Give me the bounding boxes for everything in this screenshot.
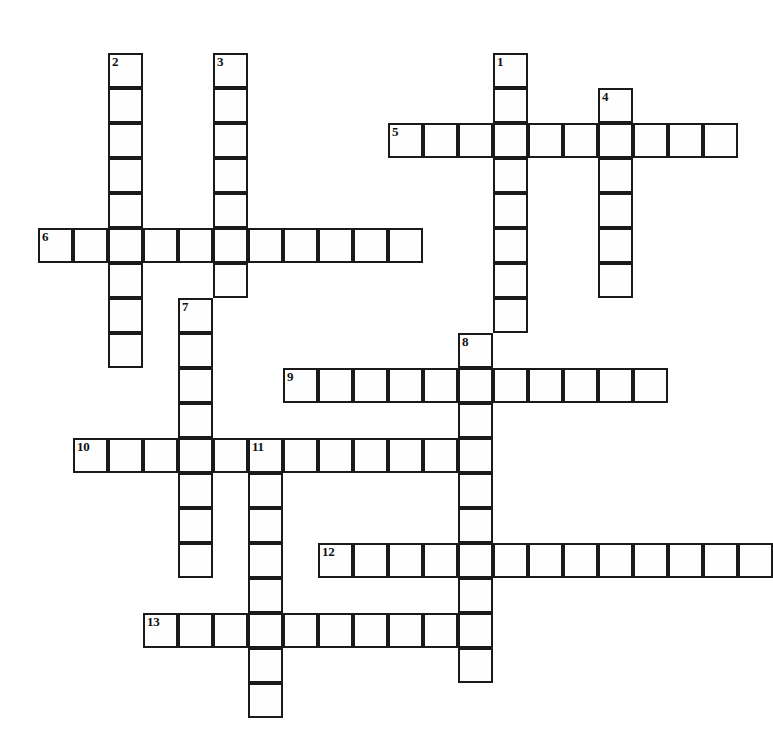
crossword-cell[interactable] [178, 438, 213, 473]
crossword-cell[interactable] [108, 193, 143, 228]
crossword-cell[interactable] [598, 368, 633, 403]
crossword-cell[interactable] [108, 263, 143, 298]
crossword-cell[interactable]: 10 [73, 438, 108, 473]
crossword-cell[interactable]: 4 [598, 88, 633, 123]
crossword-cell[interactable] [213, 613, 248, 648]
crossword-cell[interactable] [353, 368, 388, 403]
crossword-cell[interactable] [423, 123, 458, 158]
crossword-cell[interactable]: 2 [108, 53, 143, 88]
crossword-cell[interactable]: 3 [213, 53, 248, 88]
crossword-cell[interactable] [248, 613, 283, 648]
crossword-cell[interactable] [598, 228, 633, 263]
crossword-cell[interactable] [598, 193, 633, 228]
crossword-cell[interactable] [528, 123, 563, 158]
crossword-cell[interactable] [423, 368, 458, 403]
crossword-cell[interactable] [388, 228, 423, 263]
crossword-cell[interactable] [248, 473, 283, 508]
crossword-cell[interactable] [633, 543, 668, 578]
crossword-cell[interactable] [283, 438, 318, 473]
crossword-cell[interactable] [213, 193, 248, 228]
crossword-cell[interactable] [458, 473, 493, 508]
crossword-cell[interactable] [458, 543, 493, 578]
crossword-cell[interactable] [143, 228, 178, 263]
crossword-cell[interactable] [563, 543, 598, 578]
crossword-cell[interactable] [493, 158, 528, 193]
crossword-cell[interactable] [458, 438, 493, 473]
crossword-cell[interactable] [388, 368, 423, 403]
crossword-cell[interactable] [528, 543, 563, 578]
crossword-cell[interactable] [353, 438, 388, 473]
crossword-cell[interactable] [108, 158, 143, 193]
crossword-cell[interactable] [493, 123, 528, 158]
crossword-cell[interactable] [283, 228, 318, 263]
crossword-cell[interactable] [213, 158, 248, 193]
crossword-cell[interactable] [248, 578, 283, 613]
crossword-cell[interactable] [318, 368, 353, 403]
crossword-cell[interactable] [598, 123, 633, 158]
crossword-cell[interactable] [213, 88, 248, 123]
crossword-cell[interactable] [493, 298, 528, 333]
crossword-cell[interactable]: 9 [283, 368, 318, 403]
crossword-cell[interactable] [213, 228, 248, 263]
crossword-cell[interactable] [213, 263, 248, 298]
crossword-cell[interactable] [493, 263, 528, 298]
crossword-cell[interactable]: 5 [388, 123, 423, 158]
crossword-cell[interactable] [143, 438, 178, 473]
crossword-cell[interactable] [493, 228, 528, 263]
crossword-cell[interactable] [353, 228, 388, 263]
crossword-cell[interactable] [178, 543, 213, 578]
crossword-cell[interactable] [598, 543, 633, 578]
crossword-cell[interactable] [458, 403, 493, 438]
crossword-cell[interactable] [458, 123, 493, 158]
crossword-cell[interactable] [388, 543, 423, 578]
crossword-cell[interactable] [458, 613, 493, 648]
crossword-cell[interactable] [598, 158, 633, 193]
crossword-cell[interactable] [423, 438, 458, 473]
crossword-cell[interactable] [563, 368, 598, 403]
crossword-cell[interactable]: 12 [318, 543, 353, 578]
crossword-cell[interactable] [213, 438, 248, 473]
crossword-cell[interactable] [458, 368, 493, 403]
crossword-cell[interactable]: 11 [248, 438, 283, 473]
crossword-cell[interactable] [178, 613, 213, 648]
crossword-cell[interactable]: 6 [38, 228, 73, 263]
crossword-cell[interactable] [668, 543, 703, 578]
crossword-cell[interactable] [633, 123, 668, 158]
crossword-cell[interactable] [178, 368, 213, 403]
crossword-cell[interactable] [318, 228, 353, 263]
crossword-cell[interactable] [598, 263, 633, 298]
crossword-cell[interactable] [178, 333, 213, 368]
crossword-cell[interactable] [458, 578, 493, 613]
crossword-cell[interactable] [178, 508, 213, 543]
crossword-cell[interactable] [178, 228, 213, 263]
crossword-cell[interactable] [493, 543, 528, 578]
crossword-cell[interactable] [108, 228, 143, 263]
crossword-cell[interactable] [738, 543, 773, 578]
crossword-cell[interactable] [423, 613, 458, 648]
crossword-cell[interactable] [633, 368, 668, 403]
crossword-cell[interactable]: 8 [458, 333, 493, 368]
crossword-cell[interactable] [178, 473, 213, 508]
crossword-cell[interactable] [248, 508, 283, 543]
crossword-cell[interactable] [458, 648, 493, 683]
crossword-cell[interactable] [493, 193, 528, 228]
crossword-cell[interactable] [668, 123, 703, 158]
crossword-cell[interactable] [178, 403, 213, 438]
crossword-cell[interactable] [458, 508, 493, 543]
crossword-cell[interactable]: 7 [178, 298, 213, 333]
crossword-cell[interactable] [318, 438, 353, 473]
crossword-cell[interactable] [248, 648, 283, 683]
crossword-cell[interactable]: 13 [143, 613, 178, 648]
crossword-cell[interactable] [108, 333, 143, 368]
crossword-cell[interactable] [528, 368, 563, 403]
crossword-cell[interactable] [703, 543, 738, 578]
crossword-cell[interactable] [423, 543, 458, 578]
crossword-cell[interactable] [108, 438, 143, 473]
crossword-cell[interactable] [388, 438, 423, 473]
crossword-cell[interactable] [108, 88, 143, 123]
crossword-cell[interactable] [353, 613, 388, 648]
crossword-cell[interactable] [248, 543, 283, 578]
crossword-cell[interactable] [213, 123, 248, 158]
crossword-cell[interactable] [283, 613, 318, 648]
crossword-cell[interactable] [108, 298, 143, 333]
